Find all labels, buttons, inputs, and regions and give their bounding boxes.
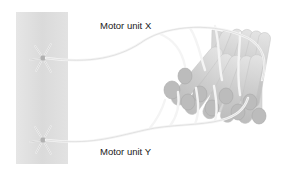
fiber-end — [219, 88, 233, 104]
fiber-end — [178, 68, 192, 84]
motor-unit-y-label: Motor unit Y — [100, 146, 151, 157]
motor-unit-diagram: Motor unit X Motor unit Y — [0, 0, 285, 175]
fiber-end — [252, 108, 266, 124]
fiber-end — [181, 94, 195, 110]
motor-unit-x-label: Motor unit X — [100, 20, 151, 31]
